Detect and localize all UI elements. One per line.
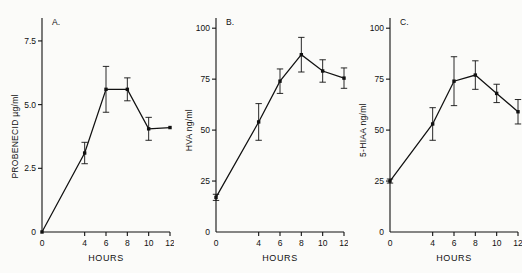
panel-letter: C. [400,17,409,27]
x-tick-label: 0 [388,238,393,248]
x-tick-label: 10 [318,238,328,248]
y-tick-label: 25 [201,176,211,186]
y-axis-title: PROBENECID µg/ml [10,94,20,178]
y-tick-label: 0 [31,227,36,237]
y-tick-label: 5.0 [24,100,36,110]
x-tick-label: 6 [104,238,109,248]
y-tick-label: 25 [375,176,385,186]
y-tick-label: 75 [201,74,211,84]
data-point-marker [431,122,434,125]
y-tick-label: 2.5 [24,163,36,173]
data-point-marker [257,120,260,123]
x-tick-label: 10 [492,238,502,248]
y-tick-label: 50 [375,125,385,135]
x-tick-label: 10 [144,238,154,248]
data-point-marker [516,110,519,113]
data-point-marker [147,127,150,130]
chart-panel-a: 02.55.07.504681012HOURSPROBENECID µg/mlA… [0,0,174,273]
figure-container: 02.55.07.504681012HOURSPROBENECID µg/mlA… [0,0,522,273]
data-point-marker [452,79,455,82]
data-point-marker [40,230,43,233]
chart-panel-c: 025507510004681012HOURS5-HIAA ng/mlC. [348,0,522,273]
x-axis-title: HOURS [88,253,124,263]
data-point-marker [388,179,391,182]
x-tick-label: 4 [82,238,87,248]
data-point-marker [214,196,217,199]
data-point-marker [278,79,281,82]
x-tick-label: 6 [452,238,457,248]
data-point-marker [83,151,86,154]
data-point-marker [321,69,324,72]
panel-plot-group: 02.55.07.504681012HOURSPROBENECID µg/mlA… [10,17,174,263]
y-axis-title: 5-HIAA ng/ml [358,103,368,157]
y-tick-label: 50 [201,125,211,135]
panel-plot-group: 025507510004681012HOURS5-HIAA ng/mlC. [358,17,522,263]
x-tick-label: 4 [430,238,435,248]
data-point-marker [495,92,498,95]
y-tick-label: 75 [375,74,385,84]
x-tick-label: 0 [214,238,219,248]
y-tick-label: 100 [370,23,384,33]
data-point-marker [342,76,345,79]
chart-panel-b: 025507510004681012HOURSHVA ng/mlB. [174,0,348,273]
y-tick-label: 0 [379,227,384,237]
x-tick-label: 8 [125,238,130,248]
panel-letter: B. [226,17,234,27]
x-tick-label: 12 [513,238,522,248]
x-tick-label: 0 [40,238,45,248]
x-axis-title: HOURS [436,253,472,263]
x-tick-label: 8 [299,238,304,248]
x-tick-label: 4 [256,238,261,248]
data-point-marker [168,126,171,129]
data-point-marker [474,73,477,76]
data-point-marker [300,53,303,56]
data-point-marker [126,88,129,91]
x-axis-title: HOURS [262,253,298,263]
y-tick-label: 100 [196,23,210,33]
panel-b-svg: 025507510004681012HOURSHVA ng/mlB. [174,0,348,273]
panel-plot-group: 025507510004681012HOURSHVA ng/mlB. [184,17,348,263]
data-point-marker [104,88,107,91]
x-tick-label: 6 [278,238,283,248]
panel-letter: A. [52,17,60,27]
x-tick-label: 12 [165,238,174,248]
y-axis-title: HVA ng/ml [184,109,194,151]
x-tick-label: 12 [339,238,348,248]
panel-a-svg: 02.55.07.504681012HOURSPROBENECID µg/mlA… [0,0,174,273]
panel-c-svg: 025507510004681012HOURS5-HIAA ng/mlC. [348,0,522,273]
y-tick-label: 0 [205,227,210,237]
y-tick-label: 7.5 [24,36,36,46]
x-tick-label: 8 [473,238,478,248]
